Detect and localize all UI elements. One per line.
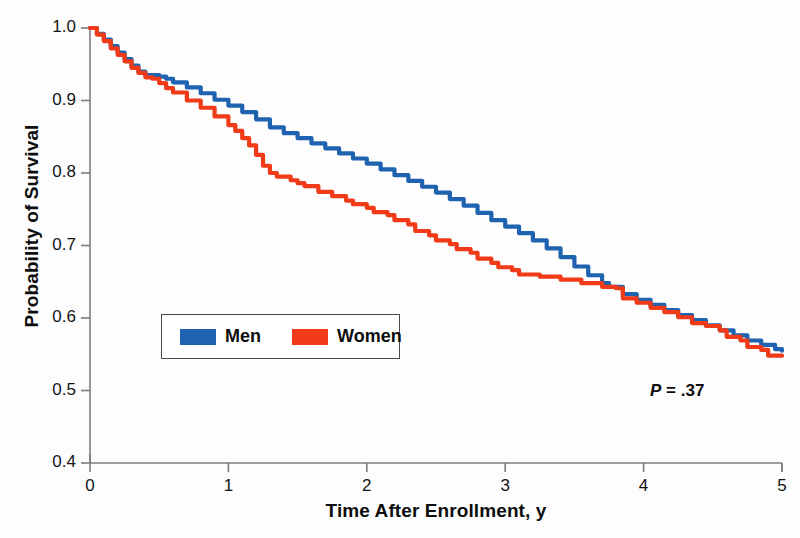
legend-item-women: Women [292,326,402,347]
legend-item-men: Men [180,326,261,347]
p-value-annotation: P = .37 [650,381,704,401]
plot-canvas [0,0,800,538]
chart-legend: Men Women [161,314,400,359]
x-tick-label: 0 [70,476,110,496]
x-axis-title: Time After Enrollment, y [90,500,782,522]
x-tick-label: 1 [208,476,248,496]
legend-label-men: Men [225,326,261,347]
y-tick-label: 0.5 [24,380,76,400]
legend-label-women: Women [337,326,402,347]
y-tick-label: 0.6 [24,307,76,327]
legend-swatch-men-icon [180,329,216,345]
legend-swatch-women-icon [292,329,328,345]
x-tick-label: 4 [624,476,664,496]
x-tick-label: 3 [485,476,525,496]
p-value-text: = .37 [661,381,704,400]
y-tick-label: 0.7 [24,235,76,255]
x-tick-label: 2 [347,476,387,496]
p-value-symbol: P [650,381,661,400]
y-tick-label: 1.0 [24,17,76,37]
survival-chart-figure: Probability of Survival Time After Enrol… [0,0,800,538]
y-axis-title-text: Probability of Survival [21,125,43,328]
y-tick-label: 0.9 [24,90,76,110]
y-tick-label: 0.4 [24,452,76,472]
series-lines [90,28,782,356]
x-tick-label: 5 [762,476,800,496]
y-tick-label: 0.8 [24,162,76,182]
